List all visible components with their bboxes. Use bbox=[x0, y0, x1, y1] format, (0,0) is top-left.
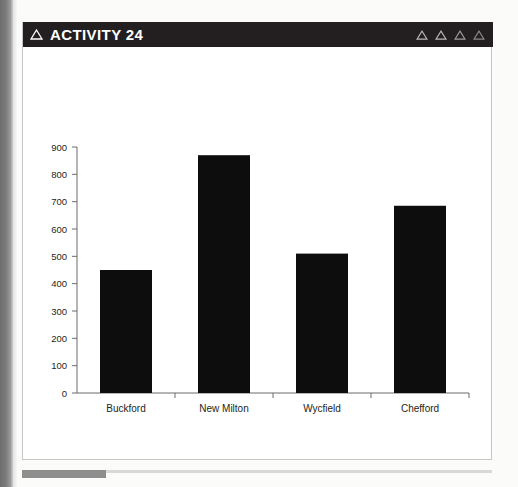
triangle-outline-icon[interactable] bbox=[416, 26, 428, 44]
triangle-outline-icon[interactable] bbox=[435, 26, 447, 44]
x-axis-category-label: Chefford bbox=[401, 403, 439, 414]
bottom-progress-bar-track bbox=[106, 470, 492, 473]
page-title: ACTIVITY 24 bbox=[50, 27, 143, 42]
bar bbox=[100, 270, 152, 393]
x-axis-category-label: Buckford bbox=[106, 403, 145, 414]
bar bbox=[296, 254, 348, 393]
panel-header-icons bbox=[416, 26, 485, 44]
bar-chart: 0100200300400500600700800900BuckfordNew … bbox=[23, 47, 491, 459]
y-axis-tick-label: 800 bbox=[51, 169, 67, 180]
triangle-outline-icon[interactable] bbox=[454, 26, 466, 44]
y-axis-tick-label: 600 bbox=[51, 224, 67, 235]
y-axis-tick-label: 900 bbox=[51, 142, 67, 153]
activity-panel: ACTIVITY 24 bbox=[22, 22, 492, 460]
y-axis-tick-label: 700 bbox=[51, 196, 67, 207]
y-axis-tick-label: 500 bbox=[51, 251, 67, 262]
y-axis-tick-label: 400 bbox=[51, 278, 67, 289]
y-axis-tick-label: 200 bbox=[51, 333, 67, 344]
y-axis-tick-label: 100 bbox=[51, 360, 67, 371]
triangle-outline-icon bbox=[30, 26, 43, 44]
page-gutter bbox=[0, 0, 13, 487]
panel-header: ACTIVITY 24 bbox=[23, 22, 493, 47]
page-gutter-edge bbox=[13, 0, 17, 487]
x-axis-category-label: New Milton bbox=[199, 403, 248, 414]
y-axis-tick-label: 0 bbox=[62, 388, 67, 399]
triangle-outline-icon[interactable] bbox=[473, 26, 485, 44]
panel-header-left: ACTIVITY 24 bbox=[30, 26, 143, 44]
bar bbox=[198, 155, 250, 393]
x-axis-category-label: Wycfield bbox=[303, 403, 341, 414]
bar-chart-svg: 0100200300400500600700800900BuckfordNew … bbox=[23, 47, 491, 459]
y-axis-tick-label: 300 bbox=[51, 306, 67, 317]
bar bbox=[394, 206, 446, 393]
bottom-progress-bar bbox=[22, 470, 106, 478]
